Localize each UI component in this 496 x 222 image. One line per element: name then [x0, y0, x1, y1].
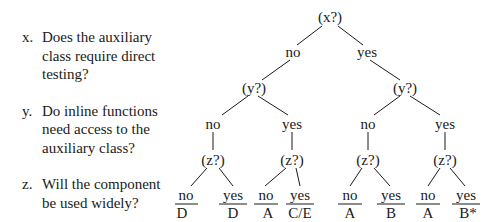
- node-z: (z?): [201, 152, 224, 169]
- answer-no: no: [259, 187, 274, 203]
- branch-yes: yes: [357, 44, 377, 60]
- leaf-outcomes: D D A C/E A B A B*: [177, 205, 477, 221]
- answer-yes: yes: [223, 187, 243, 203]
- outcome: A: [345, 205, 356, 221]
- answer-yes: yes: [456, 187, 476, 203]
- answer-no: no: [179, 187, 194, 203]
- branch-yes: yes: [435, 116, 455, 132]
- outcome: A: [263, 205, 274, 221]
- answer-yes: yes: [381, 187, 401, 203]
- node-y: (y?): [393, 80, 417, 97]
- tree-edges: [191, 26, 465, 186]
- answer-no: no: [421, 187, 436, 203]
- outcome: B*: [459, 205, 477, 221]
- branch-no: no: [361, 116, 376, 132]
- answer-yes: yes: [290, 187, 310, 203]
- node-y: (y?): [242, 80, 266, 97]
- node-z: (z?): [280, 152, 303, 169]
- outcome: C/E: [288, 205, 311, 221]
- answer-no: no: [343, 187, 358, 203]
- node-z: (z?): [433, 152, 456, 169]
- outcome: A: [423, 205, 434, 221]
- outcome: D: [228, 205, 239, 221]
- node-x: (x?): [318, 9, 342, 26]
- leaf-answers: no yes no yes no yes no yes: [179, 187, 477, 203]
- outcome: D: [177, 205, 188, 221]
- branch-no: no: [286, 44, 301, 60]
- branch-no: no: [206, 116, 221, 132]
- node-z: (z?): [356, 152, 379, 169]
- branch-yes: yes: [282, 116, 302, 132]
- outcome: B: [386, 205, 396, 221]
- decision-tree: (x?) no yes (y?) (y?) no yes no yes (z?)…: [0, 0, 496, 222]
